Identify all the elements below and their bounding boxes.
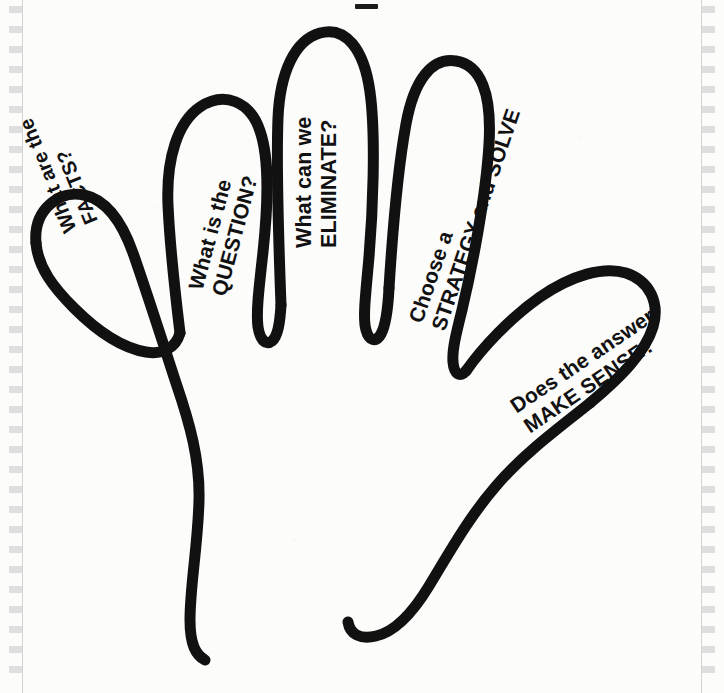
finger-label-middle: What can we ELIMINATE?: [292, 117, 342, 248]
finger-label-middle-line1: What can we: [292, 117, 317, 248]
poster-canvas: What are the FACTS? What is the QUESTION…: [0, 0, 724, 693]
finger-label-middle-line2: ELIMINATE?: [317, 117, 342, 248]
